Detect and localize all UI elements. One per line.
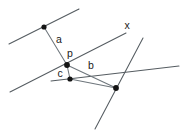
labels-group: x a p b c: [56, 19, 130, 79]
vertex-c: [67, 76, 72, 81]
label-p: p: [67, 47, 73, 59]
vertex-right: [113, 85, 119, 91]
full-lines-group: [9, 9, 179, 129]
label-x: x: [124, 19, 130, 31]
label-b: b: [88, 59, 94, 71]
geometry-canvas: x a p b c: [0, 0, 181, 133]
vertex-p: [64, 62, 70, 68]
vertex-top: [41, 24, 46, 29]
geometry-figure: x a p b c: [0, 0, 181, 133]
line-steep-right: [95, 38, 143, 129]
label-c: c: [57, 67, 62, 79]
label-a: a: [56, 33, 62, 45]
segments-group: [44, 27, 116, 88]
segment-base: [70, 79, 116, 88]
